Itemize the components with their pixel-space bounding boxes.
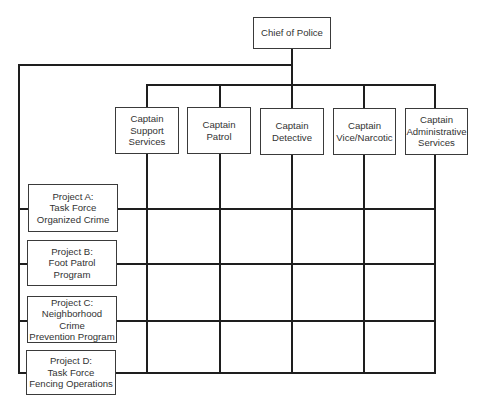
project-label: Project A: Task Force Organized Crime (37, 191, 110, 226)
chief-of-police-box: Chief of Police (253, 17, 331, 49)
captain-label: Captain Support Services (129, 113, 166, 148)
captain-label: Captain Detective (272, 120, 312, 143)
project-label: Project C: Neighborhood Crime Prevention… (28, 297, 116, 343)
captain-detective-box: Captain Detective (260, 108, 324, 155)
captain-vice-narcotic-box: Captain Vice/Narcotic (333, 108, 396, 155)
chief-stem-line (291, 48, 293, 85)
captain-label: Captain Patrol (202, 119, 235, 142)
chief-of-police-label: Chief of Police (261, 27, 323, 39)
project-a-box: Project A: Task Force Organized Crime (28, 184, 118, 232)
project-d-box: Project D: Task Force Fencing Operations (26, 350, 116, 395)
projects-trunk-line (18, 64, 20, 373)
project-b-box: Project B: Foot Patrol Program (27, 240, 117, 286)
project-label: Project B: Foot Patrol Program (49, 246, 96, 281)
captain-support-services-box: Captain Support Services (115, 107, 179, 154)
captain-patrol-box: Captain Patrol (187, 107, 251, 154)
project-c-box: Project C: Neighborhood Crime Prevention… (27, 296, 117, 343)
captain-label: Captain Administrative Services (406, 114, 466, 149)
captain-label: Captain Vice/Narcotic (336, 120, 392, 143)
projects-branch-top-line (18, 64, 293, 66)
project-label: Project D: Task Force Fencing Operations (29, 355, 113, 390)
captain-administrative-services-box: Captain Administrative Services (405, 108, 468, 155)
